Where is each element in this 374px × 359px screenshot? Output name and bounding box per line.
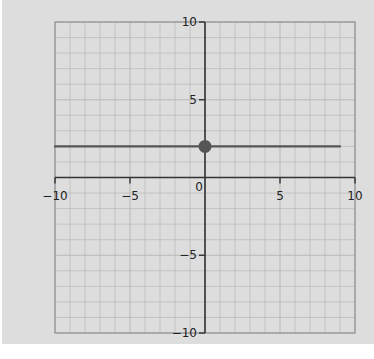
y-tick-label: −5 xyxy=(179,248,197,262)
data-series xyxy=(55,140,340,153)
x-tick-label: 5 xyxy=(276,189,284,203)
x-tick-label: 10 xyxy=(347,189,362,203)
x-tick-label: −5 xyxy=(121,189,139,203)
x-tick-label: 0 xyxy=(195,180,203,194)
y-tick-label: 10 xyxy=(182,15,197,29)
y-tick-label: 5 xyxy=(189,93,197,107)
y-tick-label: −10 xyxy=(172,326,197,340)
coordinate-plane: −10−50510−10−5510 xyxy=(0,0,374,359)
x-tick-label: −10 xyxy=(42,189,67,203)
point-marker xyxy=(199,140,212,153)
